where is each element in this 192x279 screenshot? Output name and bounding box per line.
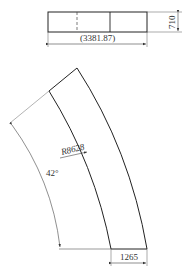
angle-ext-top	[10, 91, 49, 123]
length-label: (3381.87)	[80, 33, 115, 43]
top-view: (3381.87) 710	[48, 12, 182, 47]
top-edge	[49, 68, 77, 91]
technical-drawing: (3381.87) 710 42° R8628 1265	[0, 0, 192, 279]
width-label: 1265	[120, 252, 139, 262]
angle-label: 42°	[46, 168, 59, 178]
top-view-outline	[48, 12, 147, 32]
angle-dimension-arc	[12, 125, 60, 247]
outer-arc	[77, 68, 147, 249]
height-label: 710	[167, 15, 177, 29]
arc-view: 42° R8628 1265	[10, 68, 147, 266]
